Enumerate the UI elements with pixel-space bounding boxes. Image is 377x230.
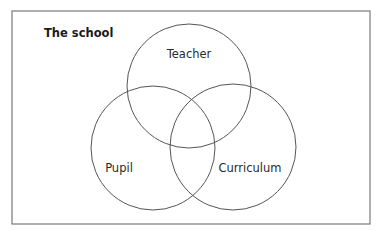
- pupil-label: Pupil: [105, 161, 133, 175]
- curriculum-circle: [170, 84, 296, 210]
- school-venn-diagram: The school Teacher Pupil Curriculum: [0, 0, 377, 230]
- curriculum-label: Curriculum: [218, 161, 281, 175]
- diagram-title: The school: [44, 26, 113, 40]
- teacher-label: Teacher: [166, 47, 212, 61]
- school-frame: [12, 11, 370, 224]
